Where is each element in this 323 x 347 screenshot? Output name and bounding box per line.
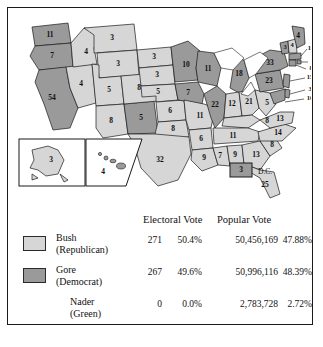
state-label-MD: 10 [307,94,311,101]
state-label-GA: 13 [252,150,260,159]
party-label: (Republican) [56,244,108,255]
state-label-OH: 21 [245,97,253,106]
dc-callout[interactable]: 3 D.C. [230,163,272,177]
state-label-CO: 8 [137,83,141,92]
electoral-pct-value: 49.6% [166,267,202,277]
state-label-MA: 12 [308,44,311,51]
state-label-NY: 33 [266,58,274,67]
state-label-CT: 8 [309,64,311,71]
state-label-ME: 4 [296,31,300,40]
electoral-pct-value: 0.0% [166,299,202,309]
state-label-AL: 9 [233,150,237,159]
state-label-SD: 3 [155,70,159,79]
state-label-HI: 4 [101,167,105,176]
state-label-PA: 23 [265,76,273,85]
state-label-AZ: 8 [109,116,113,125]
column-header-popular-vote: Popular Vote [217,214,271,225]
state-label-AR: 6 [199,134,203,143]
state-label-ID: 4 [84,47,88,56]
election-map-figure: 1175444335858335683210711691122791812218… [7,7,313,325]
state-label-CA: 54 [48,93,56,102]
state-label-WY: 3 [116,59,120,68]
table-row: Gore (Democrat) 267 49.6% 50,996,116 48.… [8,266,311,296]
state-label-LA: 9 [202,153,206,162]
state-NJ[interactable] [283,74,290,88]
state-label-MS: 7 [218,151,222,160]
state-label-UT: 5 [107,85,111,94]
electoral-pct-value: 50.4% [166,235,202,245]
state-label-NJ: 15 [307,73,311,80]
candidate-label: Bush [56,232,77,243]
state-label-IL: 22 [211,100,219,109]
party-label: (Democrat) [56,276,102,287]
legend-swatch-bush [23,236,46,251]
state-RI[interactable] [297,60,301,64]
state-label-OR: 7 [50,51,54,60]
candidate-name-gore: Gore (Democrat) [56,264,102,287]
state-label-TN: 11 [229,131,236,140]
state-label-ND: 3 [152,52,156,61]
state-label-OK: 8 [171,124,175,133]
alaska-inset[interactable]: 3 [19,139,85,186]
state-label-FL: 25 [261,180,269,189]
electoral-votes-value: 0 [126,299,162,309]
state-label-NV: 4 [79,79,83,88]
results-table: Electoral Vote Popular Vote Bush (Republ… [8,208,311,324]
legend-swatch-gore [23,268,46,283]
state-label-AK: 3 [49,155,53,164]
candidate-name-bush: Bush (Republican) [56,232,108,255]
candidate-label: Gore [56,264,76,275]
state-label-MO: 11 [196,111,203,120]
candidate-name-nader: Nader (Green) [70,296,101,319]
state-label-WA: 11 [46,30,53,39]
party-label: (Green) [70,308,101,319]
popular-pct-value: 48.39% [252,267,312,277]
table-row: Bush (Republican) 271 50.4% 50,456,169 4… [8,234,311,264]
state-label-SC: 8 [270,140,274,149]
state-label-KY: 8 [265,116,269,125]
table-header-row: Electoral Vote Popular Vote [8,214,311,228]
state-label-MT: 3 [110,33,114,42]
table-row: Nader (Green) 0 0.0% 2,783,728 2.72% [8,298,311,328]
us-electoral-map: 1175444335858335683210711691122791812218… [8,8,311,208]
state-label-IN: 12 [228,99,236,108]
state-label-WI: 11 [204,64,211,73]
state-label-NM: 5 [139,113,143,122]
dc-text-label: D.C. [258,167,272,176]
candidate-label: Nader [70,296,94,307]
hawaii-inset[interactable]: 4 [86,139,142,186]
column-header-electoral-vote: Electoral Vote [143,214,202,225]
state-label-MN: 10 [182,60,190,69]
electoral-votes-value: 271 [126,235,162,245]
state-label-VA: 13 [276,114,284,123]
state-label-DE: 3 [308,85,311,92]
state-MA[interactable] [289,53,301,60]
state-label-KS: 6 [168,106,172,115]
state-label-NC: 14 [274,128,282,137]
dc-electoral-label: 3 [239,165,243,174]
state-label-MI: 18 [235,69,243,78]
state-label-NE: 5 [156,87,160,96]
state-CT[interactable] [289,60,296,66]
popular-pct-value: 47.88% [252,235,312,245]
popular-pct-value: 2.72% [252,299,312,309]
state-label-TX: 32 [156,155,164,164]
electoral-votes-value: 267 [126,267,162,277]
state-label-WV: 5 [265,98,269,107]
state-label-IA: 7 [186,88,190,97]
